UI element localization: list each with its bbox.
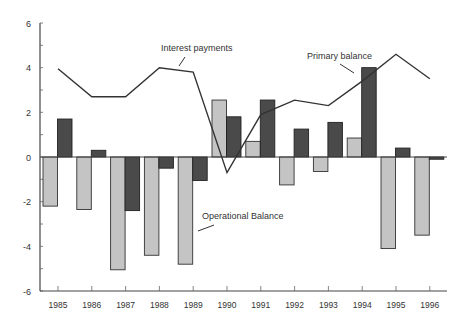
primary-balance-bar bbox=[193, 157, 208, 180]
annotation-interest-payments: Interest payments bbox=[161, 43, 233, 53]
x-tick-label: 1992 bbox=[285, 300, 304, 310]
x-tick-label: 1985 bbox=[49, 300, 68, 310]
y-tick-label: 6 bbox=[26, 19, 31, 29]
x-tick-label: 1988 bbox=[150, 300, 169, 310]
operational-balance-bar bbox=[246, 141, 260, 157]
chart: -6-4-20246 19851986198719881989199019911… bbox=[0, 0, 470, 324]
leader-line-operational bbox=[198, 225, 214, 231]
y-tick-label: -2 bbox=[23, 197, 31, 207]
operational-balance-bar bbox=[43, 157, 58, 206]
operational-balance-bar bbox=[313, 157, 328, 172]
x-axis: 1985198619871988198919901991199219931994… bbox=[40, 286, 447, 310]
operational-balance-bar bbox=[178, 157, 193, 264]
primary-balance-bar bbox=[91, 150, 106, 157]
bars bbox=[43, 68, 444, 270]
primary-balance-bar bbox=[260, 100, 275, 157]
x-tick-label: 1986 bbox=[82, 300, 101, 310]
y-tick-label: -6 bbox=[23, 287, 31, 297]
primary-balance-bar bbox=[396, 148, 411, 157]
primary-balance-bar bbox=[159, 157, 174, 168]
operational-balance-bar bbox=[347, 138, 362, 157]
x-tick-label: 1989 bbox=[184, 300, 203, 310]
x-tick-label: 1994 bbox=[353, 300, 372, 310]
operational-balance-bar bbox=[280, 157, 295, 185]
annotation-primary-balance: Primary balance bbox=[307, 51, 372, 61]
leader-line-interest bbox=[179, 57, 185, 66]
leader-line-primary bbox=[340, 64, 354, 73]
primary-balance-bar bbox=[58, 119, 73, 157]
x-tick-label: 1993 bbox=[319, 300, 338, 310]
operational-balance-bar bbox=[144, 157, 159, 255]
x-tick-label: 1995 bbox=[387, 300, 406, 310]
y-tick-label: 4 bbox=[26, 63, 31, 73]
x-tick-label: 1996 bbox=[420, 300, 439, 310]
x-tick-label: 1990 bbox=[218, 300, 237, 310]
operational-balance-bar bbox=[381, 157, 396, 249]
primary-balance-bar bbox=[362, 68, 377, 157]
primary-balance-bar bbox=[328, 122, 343, 157]
x-tick-label: 1991 bbox=[251, 300, 270, 310]
primary-balance-bar bbox=[125, 157, 140, 211]
x-tick-label: 1987 bbox=[116, 300, 135, 310]
y-tick-label: 2 bbox=[26, 108, 31, 118]
operational-balance-bar bbox=[415, 157, 430, 235]
y-tick-label: -4 bbox=[23, 242, 31, 252]
primary-balance-bar bbox=[294, 129, 309, 157]
y-tick-label: 0 bbox=[26, 153, 31, 163]
annotation-operational-balance: Operational Balance bbox=[202, 211, 284, 221]
y-axis: -6-4-20246 bbox=[23, 19, 43, 297]
operational-balance-bar bbox=[111, 157, 126, 270]
operational-balance-bar bbox=[77, 157, 92, 209]
